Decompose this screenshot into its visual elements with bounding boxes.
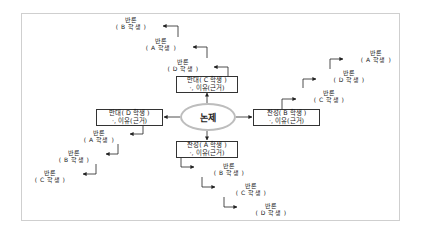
position-reason: ·, 이유(근거) xyxy=(179,150,235,158)
rebuttal-bottom-1: 반론 ( B 학생 ) xyxy=(206,162,252,176)
rebuttal-label: 반론 xyxy=(160,58,206,65)
rebuttal-label: 반론 xyxy=(248,202,294,209)
rebuttal-label: 반론 xyxy=(326,69,372,76)
rebuttal-student: ( B 학생 ) xyxy=(108,23,154,30)
topic-label: 논제 xyxy=(200,111,216,124)
rebuttal-top-3: 반론 ( B 학생 ) xyxy=(108,16,154,30)
rebuttal-student: ( D 학생 ) xyxy=(160,65,206,72)
rebuttal-label: 반론 xyxy=(306,89,352,96)
rebuttal-label: 반론 xyxy=(206,162,252,169)
rebuttal-student: ( D 학생 ) xyxy=(326,76,372,83)
rebuttal-label: 반론 xyxy=(76,129,122,136)
rebuttal-student: ( A 학생 ) xyxy=(76,136,122,143)
rebuttal-left-1: 반론 ( A 학생 ) xyxy=(76,129,122,143)
position-reason: ·, 이유(근거) xyxy=(256,118,317,126)
rebuttal-right-1: 반론 ( C 학생 ) xyxy=(306,89,352,103)
rebuttal-label: 반론 xyxy=(353,49,399,56)
rebuttal-left-2: 반론 ( B 학생 ) xyxy=(51,149,97,163)
rebuttal-student: ( C 학생 ) xyxy=(306,96,352,103)
rebuttal-label: 반론 xyxy=(27,169,73,176)
rebuttal-student: ( D 학생 ) xyxy=(248,209,294,216)
rebuttal-student: ( C 학생 ) xyxy=(228,189,274,196)
rebuttal-student: ( A 학생 ) xyxy=(353,56,399,63)
position-reason: ·, 이유(근거) xyxy=(99,118,160,126)
rebuttal-bottom-2: 반론 ( C 학생 ) xyxy=(228,182,274,196)
rebuttal-student: ( A 학생 ) xyxy=(138,44,184,51)
rebuttal-label: 반론 xyxy=(138,37,184,44)
rebuttal-top-1: 반론 ( D 학생 ) xyxy=(160,58,206,72)
position-box-agree-b: 찬성( B 학생 ) ·, 이유(근거) xyxy=(253,109,320,126)
rebuttal-student: ( C 학생 ) xyxy=(27,176,73,183)
position-box-oppose-c: 반대( C 학생 ) ·, 이유(근거) xyxy=(176,76,238,93)
topic-ellipse: 논제 xyxy=(180,103,236,131)
rebuttal-label: 반론 xyxy=(51,149,97,156)
position-reason: ·, 이유(근거) xyxy=(179,85,235,93)
rebuttal-bottom-3: 반론 ( D 학생 ) xyxy=(248,202,294,216)
rebuttal-student: ( B 학생 ) xyxy=(51,156,97,163)
rebuttal-student: ( B 학생 ) xyxy=(206,169,252,176)
rebuttal-right-3: 반론 ( A 학생 ) xyxy=(353,49,399,63)
rebuttal-top-2: 반론 ( A 학생 ) xyxy=(138,37,184,51)
rebuttal-right-2: 반론 ( D 학생 ) xyxy=(326,69,372,83)
rebuttal-label: 반론 xyxy=(108,16,154,23)
rebuttal-left-3: 반론 ( C 학생 ) xyxy=(27,169,73,183)
rebuttal-label: 반론 xyxy=(228,182,274,189)
position-box-oppose-d: 반대( D 학생 ) ·, 이유(근거) xyxy=(96,109,163,126)
position-box-agree-a: 찬성( A 학생 ) ·, 이유(근거) xyxy=(176,141,238,158)
